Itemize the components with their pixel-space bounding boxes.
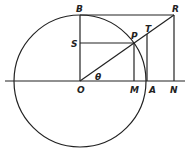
label-N: N [170,85,178,95]
label-theta: θ [95,72,101,82]
label-R: R [172,4,179,14]
label-T: T [145,24,152,34]
label-M: M [130,85,139,95]
label-P: P [131,31,138,41]
label-O: O [77,85,85,95]
label-A: A [148,85,156,95]
label-B: B [76,4,83,14]
label-S: S [71,39,77,49]
unit-circle-diagram: B R T P S O M A N θ [0,0,190,159]
